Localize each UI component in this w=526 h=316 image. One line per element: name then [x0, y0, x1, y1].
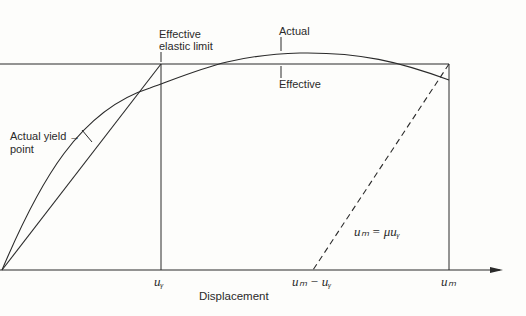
actual-yield-point-label-1: Actual yield →	[10, 130, 80, 142]
actual-label: Actual	[279, 25, 310, 37]
equation-label: uₘ = μuᵧ	[354, 226, 400, 238]
effective-label: Effective	[279, 78, 321, 90]
x-axis-label: Displacement	[199, 290, 269, 302]
effective-elastic-limit-label-1: Effective	[159, 28, 201, 40]
effective-elastic-limit-label-2: elastic limit	[159, 40, 213, 52]
effective-elastic-line	[2, 64, 161, 270]
tick-um: uₘ	[441, 276, 456, 288]
tick-um-minus-uy: uₘ − uᵧ	[292, 276, 331, 288]
actual-yield-point-label-2: point	[10, 143, 34, 155]
tick-uy: uᵧ	[154, 276, 164, 288]
yield-point-mark	[82, 130, 92, 142]
diagram-canvas	[0, 0, 526, 316]
unloading-dashed-line	[313, 64, 449, 270]
x-axis-arrow-icon	[490, 267, 503, 273]
